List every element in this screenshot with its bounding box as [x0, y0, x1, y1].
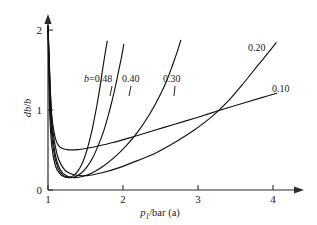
x-tick-label-4: 4: [270, 193, 276, 205]
curves-group: [48, 26, 277, 178]
curve-label-0-20: 0.20: [248, 42, 266, 53]
y-axis-arrow-icon: [44, 14, 51, 24]
y-tick-label-0: 0: [37, 184, 43, 196]
curve-label-0-30: 0.30: [163, 73, 181, 84]
curve-b-0-10: [48, 26, 277, 150]
y-axis-title-denominator: b: [22, 99, 33, 104]
x-tick-label-3: 3: [195, 193, 201, 205]
x-axis-title: p1/bar (a): [139, 207, 180, 221]
curve-label-0-48-value: 0.48: [95, 73, 113, 84]
x-axis-arrow-icon: [294, 186, 304, 193]
svg-text:p1/bar (a): p1/bar (a): [139, 207, 180, 221]
curve-label-0-10: 0.10: [272, 83, 290, 94]
y-tick-label-1: 1: [37, 104, 43, 116]
x-tick-label-2: 2: [120, 193, 126, 205]
x-tick-marks: [48, 185, 273, 190]
svg-text:db/b: db/b: [22, 99, 33, 118]
curve-b-0-30: [48, 26, 181, 178]
curve-leader-0-48: [110, 86, 112, 96]
curve-label-0-48: b=0.48: [84, 73, 112, 84]
curve-label-0-40: 0.40: [122, 73, 140, 84]
x-axis-title-rest: /bar (a): [149, 207, 180, 219]
x-tick-label-1: 1: [45, 193, 51, 205]
curve-leader-0-40: [129, 86, 131, 96]
y-tick-label-2: 2: [37, 24, 43, 36]
y-axis-title: db/b: [22, 99, 33, 118]
chart-figure: 1 2 3 4 0 1 2 p1/bar (a) db/b: [0, 0, 317, 225]
curve-leader-0-30: [174, 86, 175, 96]
x-tick-labels: 1 2 3 4: [45, 193, 276, 205]
curve-b-0-20: [48, 26, 276, 176]
y-tick-labels: 0 1 2: [37, 24, 43, 196]
chart-canvas: 1 2 3 4 0 1 2 p1/bar (a) db/b: [0, 0, 317, 225]
axes-group: [44, 14, 304, 194]
